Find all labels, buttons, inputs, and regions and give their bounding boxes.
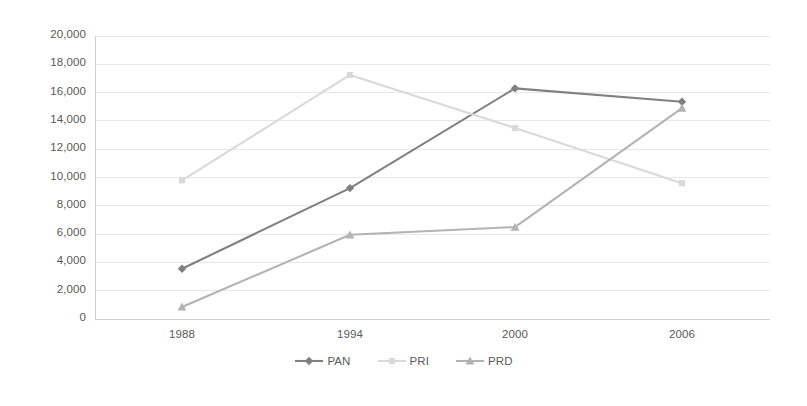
- y-tick-label: 2,000: [57, 283, 86, 295]
- x-tick-label: 2006: [642, 328, 722, 340]
- legend-label: PRD: [488, 355, 513, 367]
- data-point-marker: [388, 358, 394, 364]
- x-tick-label: 1994: [310, 328, 390, 340]
- y-tick-label: 20,000: [50, 28, 86, 40]
- series-pan: [178, 84, 686, 273]
- data-point-marker: [679, 180, 685, 186]
- y-tick-label: 4,000: [57, 254, 86, 266]
- data-point-marker: [305, 357, 313, 365]
- data-point-marker: [179, 177, 185, 183]
- y-tick-label: 16,000: [50, 85, 86, 97]
- legend-swatch-square-icon: [377, 355, 407, 367]
- x-tick-label: 1988: [142, 328, 222, 340]
- x-tick-label: 2000: [475, 328, 555, 340]
- data-series-group: [178, 72, 687, 311]
- plot-area: [0, 0, 807, 406]
- legend-label: PRI: [410, 355, 429, 367]
- y-tick-label: 12,000: [50, 141, 86, 153]
- legend-item-prd[interactable]: PRD: [455, 355, 513, 367]
- y-tick-label: 18,000: [50, 56, 86, 68]
- data-point-marker: [178, 265, 186, 273]
- line-chart: 02,0004,0006,0008,00010,00012,00014,0001…: [0, 0, 807, 406]
- y-tick-label: 6,000: [57, 226, 86, 238]
- legend-swatch-diamond-icon: [294, 355, 324, 367]
- data-point-marker: [347, 72, 353, 78]
- series-line: [182, 75, 682, 183]
- legend-swatch-triangle-icon: [455, 355, 485, 367]
- data-point-marker: [678, 104, 687, 112]
- gridlines: [95, 36, 770, 319]
- series-line: [182, 88, 682, 268]
- data-point-marker: [512, 125, 518, 131]
- legend-label: PAN: [327, 355, 350, 367]
- y-tick-label: 0: [80, 311, 87, 323]
- y-tick-label: 10,000: [50, 170, 86, 182]
- chart-legend: PANPRIPRD: [0, 355, 807, 367]
- series-pri: [179, 72, 685, 186]
- y-tick-label: 8,000: [57, 198, 86, 210]
- legend-item-pan[interactable]: PAN: [294, 355, 350, 367]
- y-tick-label: 14,000: [50, 113, 86, 125]
- legend-item-pri[interactable]: PRI: [377, 355, 429, 367]
